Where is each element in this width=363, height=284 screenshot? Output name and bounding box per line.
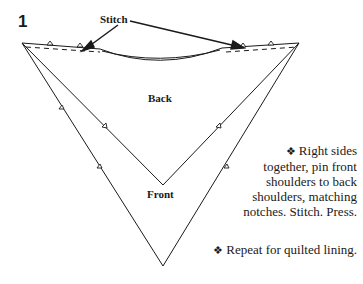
instruction-line: notches. Stitch. Press. bbox=[207, 204, 357, 219]
stitch-label: Stitch bbox=[100, 13, 128, 25]
instruction-line: Repeat for quilted lining. bbox=[226, 242, 357, 257]
neckline-inner bbox=[102, 50, 220, 58]
back-left-edge bbox=[22, 43, 163, 185]
instruction-line: Right sides bbox=[299, 143, 357, 158]
instruction-repeat-lining: ❖Repeat for quilted lining. bbox=[187, 242, 357, 258]
bullet-icon: ❖ bbox=[213, 244, 223, 256]
instruction-pin-shoulders: ❖Right sides together, pin front shoulde… bbox=[207, 143, 357, 219]
front-label: Front bbox=[147, 188, 174, 200]
front-left-edge bbox=[22, 43, 163, 266]
arrowhead-left-icon bbox=[82, 41, 94, 51]
instruction-line: shoulders to back bbox=[207, 174, 357, 189]
bullet-icon: ❖ bbox=[286, 145, 296, 157]
instruction-line: shoulders, matching bbox=[207, 189, 357, 204]
stitch-arrow-right bbox=[130, 21, 236, 46]
back-label: Back bbox=[148, 92, 172, 104]
instruction-line: together, pin front bbox=[207, 159, 357, 174]
